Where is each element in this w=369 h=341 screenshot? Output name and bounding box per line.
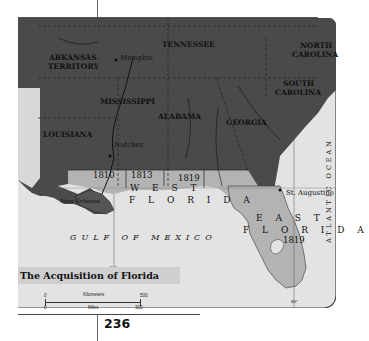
label-tennessee: TENNESSEE [162,41,215,49]
label-mississippi: MISSISSIPPI [100,98,155,106]
label-territory: TERRITORY [48,63,99,71]
label-gulf-of-mexico: GULF OF MEXICO [70,234,217,242]
label-east-florida: F L O R I D A [243,226,369,235]
scale-km-end: 500 [140,293,148,298]
scale-bar [45,302,140,303]
label-arkansas: ARKANSAS [49,54,97,62]
scale-km-label: Kilometers [83,292,104,297]
label-east: E A S T [256,214,325,223]
year-1819-east: 1819 [283,236,305,245]
longitude-80: 80° [291,300,298,304]
label-carolina-n: CAROLINA [292,51,338,59]
year-1810: 1810 [93,171,115,180]
scale-mi-end: 300 [135,305,143,310]
label-louisiana: LOUISIANA [43,131,92,139]
label-south: SOUTH [283,80,314,88]
bottom-rule [18,314,200,315]
year-1813: 1813 [131,171,153,180]
page-rule-top [97,0,98,18]
label-atlantic-ocean: ATLANTIC OCEAN [326,138,333,243]
city-natchez: Natchez [114,142,143,149]
label-carolina-s: CAROLINA [275,89,321,97]
label-west-florida: F L O R I D A [129,196,255,205]
label-west: W E S T [130,184,202,193]
year-1819-west: 1819 [178,174,200,183]
scale-mi-label: Miles [88,305,99,310]
city-new-orleans: New Orleans [60,198,100,204]
label-georgia: GEORGIA [226,119,267,127]
map-title: The Acquisition of Florida [20,270,159,281]
bottom-vertical-rule [97,314,98,341]
label-north: NORTH [300,42,332,50]
map-frame: ARKANSAS TERRITORY TENNESSEE NORTH CAROL… [18,18,336,308]
scale-mi-start: 0 [44,305,47,310]
city-memphis: Memphis [120,55,153,62]
scale-km-start: 0 [44,293,47,298]
page-number: 236 [104,316,130,331]
label-alabama: ALABAMA [158,113,201,121]
